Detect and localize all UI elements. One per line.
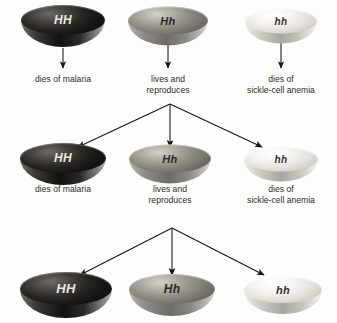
disc-body: Hh — [129, 145, 211, 184]
disc-body: hh — [245, 9, 317, 44]
genotype-label: Hh — [164, 282, 181, 296]
disc-top-face: HH — [21, 5, 105, 35]
caption-line: dies of malaria — [35, 74, 91, 85]
inheritance-diagram: HHHhhhHHHhhhHHHhhh dies of malarialives … — [0, 0, 337, 323]
outcome-caption-hh-row2: dies of malaria — [35, 184, 91, 195]
caption-line: dies of malaria — [35, 184, 91, 195]
disc-body: hh — [244, 147, 318, 182]
disc-top-face: Hh — [129, 145, 211, 173]
caption-line: sickle-cell anemia — [247, 195, 315, 206]
disc-top-face: hh — [244, 147, 318, 172]
disc-top-face: hh — [244, 276, 322, 303]
caption-line: sickle-cell anemia — [247, 85, 315, 96]
disc-top-face: Hh — [128, 7, 208, 35]
disc-body: Hh — [128, 7, 208, 46]
genotype-label: hh — [276, 284, 290, 296]
second-cross-fan-to-hh — [172, 228, 264, 275]
caption-line: dies of — [247, 74, 315, 85]
genotype-disc-hh-row2: Hh — [129, 145, 211, 184]
disc-top-face: hh — [245, 9, 317, 34]
caption-line: reproduces — [147, 85, 190, 96]
genotype-disc-hh-row2: hh — [244, 147, 318, 182]
genotype-disc-hh-row1: HH — [21, 5, 105, 47]
disc-body: HH — [21, 5, 105, 47]
genotype-disc-hh-row3: HH — [20, 272, 112, 318]
genotype-label: hh — [275, 16, 288, 27]
genotype-disc-hh-row1: hh — [245, 9, 317, 44]
disc-body: Hh — [129, 274, 215, 316]
caption-line: lives and — [149, 184, 192, 195]
caption-line: lives and — [147, 74, 190, 85]
genotype-label: HH — [56, 281, 75, 296]
genotype-label: HH — [54, 151, 72, 165]
genotype-disc-hh-row1: Hh — [128, 7, 208, 46]
genotype-disc-hh-row3: Hh — [129, 274, 215, 316]
disc-top-face: HH — [20, 272, 112, 305]
disc-body: HH — [20, 272, 112, 318]
caption-line: reproduces — [149, 195, 192, 206]
genotype-label: hh — [275, 154, 288, 165]
outcome-caption-hh-row1: dies ofsickle-cell anemia — [247, 74, 315, 97]
genotype-disc-hh-row2: HH — [20, 143, 106, 185]
second-cross-fan-to-hh — [80, 228, 172, 275]
disc-body: hh — [244, 276, 322, 314]
disc-top-face: HH — [20, 143, 106, 173]
genotype-label: Hh — [162, 153, 177, 165]
outcome-caption-hh-row1: lives andreproduces — [147, 74, 190, 97]
first-cross-fan-to-hh — [78, 104, 170, 147]
outcome-caption-hh-row2: lives andreproduces — [149, 184, 192, 207]
first-cross-fan-to-hh — [170, 104, 262, 147]
disc-top-face: Hh — [129, 274, 215, 304]
disc-body: HH — [20, 143, 106, 185]
genotype-label: HH — [54, 13, 72, 27]
caption-line: dies of — [247, 184, 315, 195]
genotype-label: Hh — [160, 15, 175, 27]
outcome-caption-hh-row1: dies of malaria — [35, 74, 91, 85]
outcome-caption-hh-row2: dies ofsickle-cell anemia — [247, 184, 315, 207]
genotype-disc-hh-row3: hh — [244, 276, 322, 314]
